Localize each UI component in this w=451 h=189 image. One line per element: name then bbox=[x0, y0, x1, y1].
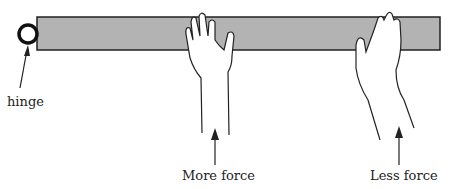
hinge-icon bbox=[19, 25, 37, 43]
hinge-arrow-icon bbox=[20, 45, 30, 88]
hinge-label: hinge bbox=[7, 94, 44, 109]
more-force-label: More force bbox=[182, 168, 255, 183]
lever-diagram bbox=[0, 0, 451, 189]
less-force-label: Less force bbox=[370, 168, 438, 183]
